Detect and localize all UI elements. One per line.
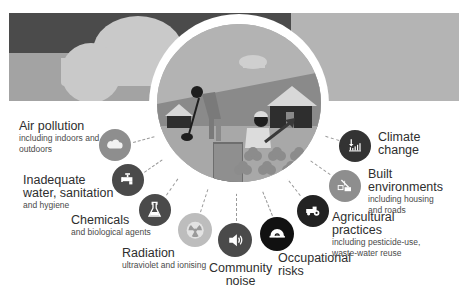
community-noise-badge[interactable] [218, 223, 252, 257]
connector-built [310, 160, 330, 175]
tractor-icon [303, 201, 322, 220]
community-noise-title-2: noise [209, 275, 272, 288]
radiation-subtitle: ultraviolet and ionising [122, 260, 206, 271]
hero-illustration [157, 24, 321, 182]
built-environments-subtitle-1: including housing [368, 194, 443, 205]
air-pollution-title: Air pollution [19, 120, 99, 133]
thermometer-chart-icon [345, 136, 364, 155]
air-pollution-subtitle-2: outdoors [19, 144, 99, 155]
connector-water [144, 159, 163, 172]
agricultural-practices-badge[interactable] [297, 195, 329, 227]
water-subtitle: and hygiene [23, 200, 113, 211]
agricultural-practices-subtitle-1: including pesticide-use, [332, 237, 420, 248]
radiation-label: Radiation ultraviolet and ionising [122, 247, 206, 271]
built-environments-badge[interactable] [329, 170, 361, 202]
air-pollution-subtitle-1: including indoors and [19, 133, 99, 144]
built-environments-subtitle-2: and roads [368, 205, 443, 216]
connector-rad [200, 189, 208, 212]
chemicals-subtitle: and biological agents [71, 227, 151, 238]
connector-air [133, 136, 155, 143]
air-pollution-badge[interactable] [99, 129, 131, 161]
water-title-2: water, sanitation [23, 187, 113, 200]
hard-hat-icon [267, 224, 287, 244]
cloud-icon [105, 135, 124, 154]
faucet-icon [118, 170, 137, 189]
occupational-risks-title-2: risks [278, 265, 351, 278]
chemicals-title: Chemicals [71, 214, 151, 227]
agricultural-practices-subtitle-2: waste-water reuse [332, 248, 420, 259]
radiation-icon [185, 220, 205, 240]
climate-change-badge[interactable] [339, 130, 371, 162]
occupational-risks-badge[interactable] [260, 217, 294, 251]
connector-noise [236, 193, 237, 221]
connector-occ [262, 192, 273, 216]
speaker-icon [225, 230, 245, 250]
built-environments-label: Built environments including housing and… [368, 168, 443, 216]
agricultural-practices-label: Agricultural practices including pestici… [332, 211, 420, 259]
water-badge[interactable] [112, 164, 144, 196]
crane-icon [335, 176, 354, 195]
farming-scene-illustration [157, 24, 321, 182]
air-pollution-label: Air pollution including indoors and outd… [19, 120, 99, 154]
built-environments-title-2: environments [368, 181, 443, 194]
radiation-title: Radiation [122, 247, 206, 260]
climate-change-title-2: change [378, 144, 420, 157]
radiation-badge[interactable] [178, 213, 212, 247]
climate-change-label: Climate change [378, 131, 420, 157]
water-label: Inadequate water, sanitation and hygiene [23, 174, 113, 211]
connector-chem [166, 179, 178, 196]
chemicals-label: Chemicals and biological agents [71, 214, 151, 238]
agricultural-practices-title-2: practices [332, 224, 420, 237]
community-noise-label: Community noise [209, 262, 272, 288]
